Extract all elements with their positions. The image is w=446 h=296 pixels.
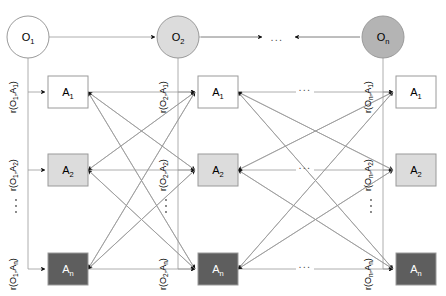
relation-label-r-O2-A2: r(O2,A2) [158, 159, 169, 191]
diagram-svg: O1O2OnA1A2AnA1A2AnA1A2An r(O1,A1)r(O1,A2… [0, 0, 446, 296]
attribute-node-O2-A1[interactable]: A1 [198, 76, 238, 108]
dots-col3-dot-2 [370, 211, 372, 213]
dots-col3-dot-1 [370, 205, 372, 207]
dots-a2-row: ... [299, 159, 312, 171]
dots-col1-dot-0 [15, 199, 17, 201]
relation-label-r-O1-A1: r(O1,A1) [8, 81, 19, 113]
dots-col2-dot-2 [165, 211, 167, 213]
dots-col1-dot-2 [15, 211, 17, 213]
dots-col2-dot-0 [165, 199, 167, 201]
attribute-node-O1-An[interactable]: An [48, 253, 88, 285]
relation-label-r-O2-A1: r(O2,A1) [158, 81, 169, 113]
attribute-node-O1-A1[interactable]: A1 [48, 76, 88, 108]
attribute-node-On-A2[interactable]: A2 [396, 154, 436, 186]
object-node-On[interactable]: On [362, 16, 404, 58]
relation-label-r-O2-An: r(O2,An) [158, 258, 169, 290]
attribute-node-On-An[interactable]: An [396, 253, 436, 285]
relation-label-r-On-An: r(On,An) [363, 258, 374, 290]
attribute-node-O2-A2[interactable]: A2 [198, 154, 238, 186]
dots-an-row: ... [299, 258, 312, 270]
edges-group [28, 37, 393, 269]
relation-label-r-O1-A2: r(O1,A2) [8, 159, 19, 191]
dots-col3-dot-0 [370, 199, 372, 201]
dots-objects-row: ... [271, 31, 284, 43]
relation-label-r-O1-An: r(O1,An) [8, 258, 19, 290]
attribute-node-On-A1[interactable]: A1 [396, 76, 436, 108]
attribute-node-O1-A2[interactable]: A2 [48, 154, 88, 186]
attribute-node-O2-An[interactable]: An [198, 253, 238, 285]
object-node-O1[interactable]: O1 [7, 16, 49, 58]
relation-label-r-On-A1: r(On,A1) [363, 81, 374, 113]
dots-col2-dot-1 [165, 205, 167, 207]
dots-a1-row: ... [299, 81, 312, 93]
diagram-canvas: O1O2OnA1A2AnA1A2AnA1A2An r(O1,A1)r(O1,A2… [0, 0, 446, 296]
dots-col1-dot-1 [15, 205, 17, 207]
relation-label-r-On-A2: r(On,A2) [363, 159, 374, 191]
object-node-O2[interactable]: O2 [157, 16, 199, 58]
